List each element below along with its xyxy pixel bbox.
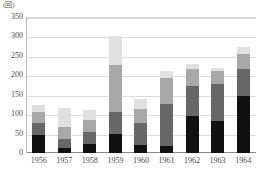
y-tick-label: 0 [0,149,23,157]
gridline [27,37,256,38]
y-tick-label: 200 [0,71,23,79]
x-tick-label: 1964 [230,156,256,166]
x-tick-label: 1957 [52,156,78,166]
gridline [27,135,256,136]
x-tick-label: 1960 [128,156,154,166]
x-tick-label: 1956 [26,156,52,166]
x-tick-label: 1961 [154,156,180,166]
stacked-bar-chart: (回) 350300250200150100500 19561957195819… [0,0,261,176]
y-tick-label: 350 [0,13,23,21]
gridline [27,76,256,77]
y-tick-label: 300 [0,32,23,40]
gridline [27,115,256,116]
y-tick-label: 250 [0,52,23,60]
gridline [27,96,256,97]
x-tick-label: 1963 [205,156,231,166]
x-tick-label: 1959 [103,156,129,166]
x-axis-line [27,152,256,153]
plot-area [26,17,256,153]
x-tick-label: 1958 [77,156,103,166]
y-tick-label: 100 [0,110,23,118]
x-axis-tick-labels: 195619571958195919601961196219631964 [26,156,256,166]
gridline [27,57,256,58]
y-tick-label: 50 [0,130,23,138]
gridline [27,18,256,19]
y-tick-label: 150 [0,91,23,99]
x-tick-label: 1962 [179,156,205,166]
y-axis-unit-label: (回) [3,1,15,10]
